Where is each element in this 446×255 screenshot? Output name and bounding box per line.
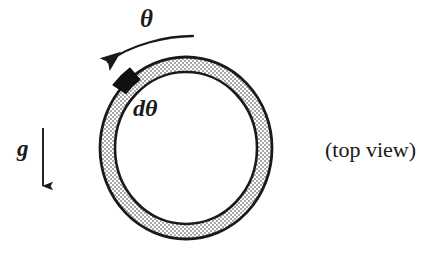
top-view-caption: (top view)	[325, 139, 416, 161]
gravity-label: g	[17, 137, 29, 160]
theta-label: θ	[140, 6, 153, 31]
ring-stipple-fill	[0, 0, 446, 255]
annulus-ring	[0, 0, 446, 255]
diagram-canvas	[0, 0, 446, 255]
figure-root: θ dθ g (top view)	[0, 0, 446, 255]
d-theta-label: dθ	[133, 96, 157, 120]
